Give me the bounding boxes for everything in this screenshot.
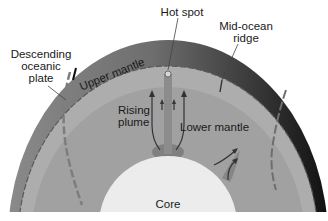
descending-plate-line1: Descending bbox=[6, 48, 76, 60]
rising-plume-line1: Rising bbox=[118, 104, 152, 116]
mid-ocean-ridge-line2: ridge bbox=[212, 32, 280, 44]
mid-ocean-ridge-line1: Mid-ocean bbox=[212, 20, 280, 32]
lower-mantle-label: Lower mantle bbox=[180, 121, 250, 133]
hot-spot-label: Hot spot bbox=[150, 6, 214, 18]
descending-plate-label: Descending oceanic plate bbox=[6, 48, 76, 84]
core-label: Core bbox=[148, 198, 188, 210]
descending-plate-line2: oceanic bbox=[6, 60, 76, 72]
plume-column bbox=[164, 74, 172, 154]
rising-plume-line2: plume bbox=[118, 116, 152, 128]
mid-ocean-ridge-label: Mid-ocean ridge bbox=[212, 20, 280, 44]
hot-spot-marker bbox=[165, 71, 171, 77]
descending-plate-line3: plate bbox=[6, 72, 76, 84]
rising-plume-label: Rising plume bbox=[118, 104, 152, 128]
